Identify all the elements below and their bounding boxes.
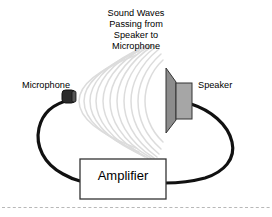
speaker-cone bbox=[166, 68, 176, 133]
microphone-grille bbox=[72, 91, 76, 102]
microphone-icon bbox=[62, 90, 76, 103]
title-line-3: Speaker to bbox=[0, 30, 272, 41]
sound-wave-arc bbox=[145, 60, 163, 142]
title-line-4: Microphone bbox=[0, 41, 272, 52]
speaker-body bbox=[176, 83, 192, 119]
speaker-icon bbox=[166, 68, 192, 133]
sound-waves-group bbox=[79, 45, 163, 158]
title-line-2: Passing from bbox=[0, 19, 272, 30]
sound-waves-diagram: Sound Waves Passing from Speaker to Micr… bbox=[0, 0, 272, 217]
diagram-title: Sound Waves Passing from Speaker to Micr… bbox=[0, 8, 272, 51]
cable-microphone-to-amplifier bbox=[38, 100, 80, 181]
title-line-1: Sound Waves bbox=[0, 8, 272, 19]
speaker-label: Speaker bbox=[198, 80, 232, 91]
amplifier-label: Amplifier bbox=[80, 168, 166, 183]
microphone-label: Microphone bbox=[22, 80, 70, 91]
